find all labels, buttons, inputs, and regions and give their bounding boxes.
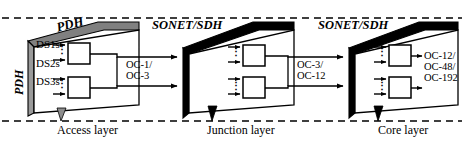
junction-tech-label: SONET/SDH bbox=[152, 19, 222, 32]
junction-slab-side-face bbox=[183, 48, 189, 118]
core-ellipsis-lower: ⋮ bbox=[377, 81, 387, 91]
access-node-upper bbox=[68, 43, 90, 64]
access-slab-side-face bbox=[28, 41, 34, 116]
junction-ellipsis-lower: ⋮ bbox=[231, 81, 241, 91]
network-architecture-diagram: PDH SONET/SDH SONET/SDH PDH DS1s DS2s DS… bbox=[0, 0, 464, 142]
core-layer-caption: Core layer bbox=[378, 124, 428, 136]
core-tech-label: SONET/SDH bbox=[318, 19, 388, 32]
core-output-rate-line3: OC-192 bbox=[424, 73, 458, 84]
access-ellipsis-lower: ⋮ bbox=[57, 79, 67, 89]
core-slab-side-face bbox=[349, 48, 355, 118]
junction-node-upper bbox=[243, 45, 265, 66]
core-node-lower bbox=[389, 77, 411, 98]
access-side-label: PDH bbox=[13, 70, 25, 95]
access-layer-caption: Access layer bbox=[57, 124, 118, 136]
access-input-ds2s: DS2s bbox=[36, 58, 60, 69]
junction-ellipsis-upper: ⋮ bbox=[231, 47, 241, 57]
core-node-upper bbox=[389, 45, 411, 66]
junction-label-pointer bbox=[208, 106, 217, 121]
core-ellipsis-upper: ⋮ bbox=[377, 47, 387, 57]
access-ellipsis-upper: ⋮ bbox=[57, 45, 67, 55]
junction-layer-slab bbox=[183, 22, 294, 118]
junction-node-lower bbox=[243, 77, 265, 98]
junction-layer-caption: Junction layer bbox=[207, 124, 275, 136]
junction-output-rate-line2: OC-12 bbox=[297, 71, 326, 82]
core-label-pointer bbox=[374, 106, 383, 121]
access-node-lower bbox=[68, 77, 90, 98]
access-output-rate-line2: OC-3 bbox=[126, 71, 149, 82]
access-label-pointer bbox=[57, 108, 66, 121]
